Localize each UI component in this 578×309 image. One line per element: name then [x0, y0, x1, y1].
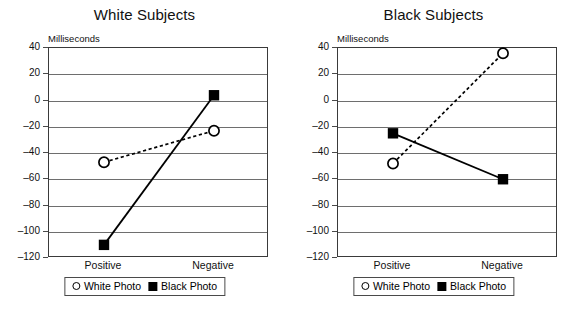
series-black-photo-line-right: [393, 133, 503, 179]
y-tick-label: –100: [18, 226, 40, 236]
y-tick-label: 0: [34, 95, 40, 105]
y-tick-label: 40: [318, 42, 329, 52]
y-tick-label: –100: [307, 226, 329, 236]
series-white-photo-right: [388, 48, 508, 168]
data-point-black-photo-positive-right: [388, 128, 398, 138]
y-tick-label: 20: [29, 68, 40, 78]
x-tick-label-negative: Negative: [481, 259, 522, 272]
open-circle-marker-icon: [361, 282, 369, 290]
series-black-photo-line-left: [104, 95, 214, 245]
y-tick-label: –20: [23, 121, 40, 131]
data-point-white-photo-positive-right: [388, 158, 398, 168]
y-tick-label: –60: [23, 173, 40, 183]
filled-square-marker-icon: [437, 282, 446, 291]
plot-area-black-subjects: [337, 47, 557, 257]
filled-square-marker-icon: [148, 282, 157, 291]
y-tick-label: –120: [307, 252, 329, 262]
y-tick-labels-right: 40 20 0 –20 –40 –60 –80 –100 –120: [289, 47, 333, 257]
y-tick-label: –60: [312, 173, 329, 183]
legend-label-black-photo: Black Photo: [161, 280, 217, 292]
x-tick-labels-right: Positive Negative: [337, 259, 557, 275]
series-black-photo-right: [388, 128, 508, 184]
data-point-white-photo-negative-left: [209, 126, 219, 136]
x-tick-label-positive: Positive: [85, 259, 122, 272]
y-axis-unit-label-right: Milliseconds: [337, 33, 389, 44]
data-point-black-photo-negative-right: [498, 174, 508, 184]
x-tick-label-negative: Negative: [192, 259, 233, 272]
y-tick-label: 20: [318, 68, 329, 78]
legend-label-white-photo: White Photo: [373, 280, 430, 292]
figure-two-panel-line-charts: White Subjects Milliseconds 40 20 0 –20 …: [0, 0, 578, 309]
series-white-photo-line-right: [393, 53, 503, 163]
legend-label-black-photo: Black Photo: [450, 280, 506, 292]
legend-entry-black-photo: Black Photo: [148, 280, 217, 292]
y-tick-label: 40: [29, 42, 40, 52]
legend-white-subjects: White Photo Black Photo: [64, 277, 225, 296]
legend-black-subjects: White Photo Black Photo: [353, 277, 514, 296]
panel-black-subjects: Black Subjects Milliseconds 40 20 0 –20 …: [289, 0, 578, 309]
y-tick-label: –120: [18, 252, 40, 262]
y-tick-label: 0: [323, 95, 329, 105]
x-tick-labels-left: Positive Negative: [48, 259, 268, 275]
series-black-photo-left: [99, 90, 219, 250]
series-layer-white-subjects: [49, 48, 269, 258]
open-circle-marker-icon: [72, 282, 80, 290]
panel-white-subjects: White Subjects Milliseconds 40 20 0 –20 …: [0, 0, 289, 309]
series-white-photo-line-left: [104, 131, 214, 163]
y-tick-label: –40: [312, 147, 329, 157]
data-point-white-photo-positive-left: [99, 157, 109, 167]
legend-label-white-photo: White Photo: [84, 280, 141, 292]
y-tick-labels-left: 40 20 0 –20 –40 –60 –80 –100 –120: [0, 47, 44, 257]
panel-title-black-subjects: Black Subjects: [289, 6, 578, 23]
y-tick-label: –20: [312, 121, 329, 131]
series-white-photo-left: [99, 126, 219, 168]
data-point-white-photo-negative-right: [498, 48, 508, 58]
y-tick-label: –80: [312, 200, 329, 210]
legend-entry-black-photo: Black Photo: [437, 280, 506, 292]
y-tick-label: –40: [23, 147, 40, 157]
legend-entry-white-photo: White Photo: [361, 280, 430, 292]
panel-title-white-subjects: White Subjects: [0, 6, 289, 23]
series-layer-black-subjects: [338, 48, 558, 258]
y-tick-label: –80: [23, 200, 40, 210]
legend-entry-white-photo: White Photo: [72, 280, 141, 292]
data-point-black-photo-positive-left: [99, 240, 109, 250]
y-axis-unit-label-left: Milliseconds: [48, 33, 100, 44]
x-tick-label-positive: Positive: [374, 259, 411, 272]
plot-area-white-subjects: [48, 47, 268, 257]
data-point-black-photo-negative-left: [209, 90, 219, 100]
